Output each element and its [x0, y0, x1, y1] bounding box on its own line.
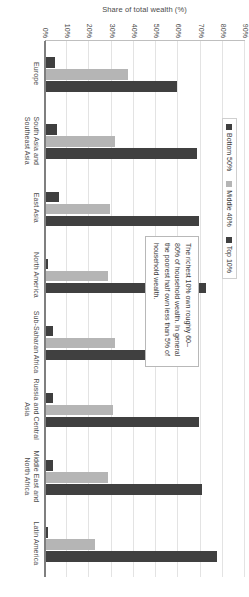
- annotation-callout: The richest 10% own roughly 60–80% of ho…: [145, 236, 199, 367]
- legend-swatch-icon: [227, 124, 233, 130]
- y-tick-label: 70%: [197, 24, 204, 38]
- bar-middle-40: [46, 69, 128, 80]
- y-tick-label: 50%: [153, 24, 160, 38]
- wealth-distribution-bar-chart: Share of total wealth (%) 0%10%20%30%40%…: [0, 0, 245, 597]
- bar-top-10: [46, 81, 177, 92]
- category-label: Middle East and North Africa: [23, 443, 41, 510]
- bar-bottom-50: [46, 527, 48, 538]
- y-tick-label: 40%: [130, 24, 137, 38]
- bar-middle-40: [46, 338, 115, 349]
- category-label: Russia and Central Asia: [23, 376, 41, 443]
- bar-bottom-50: [46, 57, 55, 68]
- y-tick-label: 80%: [219, 24, 226, 38]
- y-axis-tick-labels: 0%10%20%30%40%50%60%70%80%90%: [45, 14, 245, 40]
- y-tick-label: 90%: [242, 24, 246, 38]
- bar-top-10: [46, 417, 199, 428]
- legend-item: Top 10%: [226, 237, 233, 273]
- rotated-chart-stage: Share of total wealth (%) 0%10%20%30%40%…: [0, 0, 245, 597]
- bar-top-10: [46, 551, 217, 562]
- bar-bottom-50: [46, 326, 53, 337]
- legend-swatch-icon: [227, 237, 233, 243]
- bar-middle-40: [46, 405, 113, 416]
- bar-middle-40: [46, 136, 115, 147]
- legend-item: Bottom 50%: [226, 124, 233, 171]
- bar-middle-40: [46, 271, 108, 282]
- legend-swatch-icon: [227, 181, 233, 187]
- chart-legend: Bottom 50%Middle 40%Top 10%: [222, 118, 237, 279]
- category-label: Europe: [32, 40, 41, 107]
- axis-baseline: [44, 41, 45, 577]
- y-tick-label: 60%: [175, 24, 182, 38]
- y-axis-title-text: Share of total wealth (%): [103, 5, 188, 14]
- category-label: South Asia and Southeast Asia: [23, 107, 41, 174]
- legend-label: Middle 40%: [226, 190, 233, 227]
- category-label: North America: [32, 241, 41, 308]
- bar-bottom-50: [46, 393, 53, 404]
- y-tick-label: 20%: [86, 24, 93, 38]
- bar-top-10: [46, 148, 197, 159]
- y-tick-label: 0%: [42, 28, 49, 38]
- bar-top-10: [46, 216, 199, 227]
- bar-middle-40: [46, 204, 110, 215]
- bar-top-10: [46, 484, 202, 495]
- bar-bottom-50: [46, 124, 57, 135]
- legend-label: Top 10%: [226, 246, 233, 273]
- y-tick-label: 10%: [64, 24, 71, 38]
- category-label: Latin America: [32, 510, 41, 577]
- bar-bottom-50: [46, 259, 48, 270]
- bar-bottom-50: [46, 460, 53, 471]
- bar-bottom-50: [46, 192, 59, 203]
- bar-middle-40: [46, 472, 108, 483]
- legend-label: Bottom 50%: [226, 133, 233, 171]
- bar-middle-40: [46, 539, 95, 550]
- category-label: Sub-Saharan Africa: [32, 309, 41, 376]
- y-tick-label: 30%: [108, 24, 115, 38]
- legend-item: Middle 40%: [226, 181, 233, 227]
- annotation-text: The richest 10% own roughly 60–80% of ho…: [154, 243, 193, 356]
- category-label: East Asia: [32, 174, 41, 241]
- category-axis-labels: EuropeSouth Asia and Southeast AsiaEast …: [3, 40, 43, 577]
